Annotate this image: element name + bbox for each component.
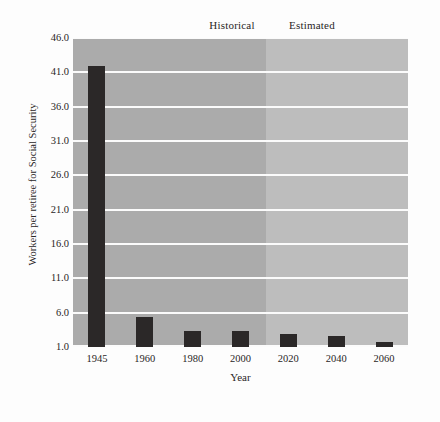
plot-area: [73, 38, 408, 347]
band-label-estimated: Estimated: [277, 19, 347, 31]
x-tick-label: 1980: [169, 353, 217, 364]
bar-2040: [328, 336, 345, 347]
y-tick-label: 46.0: [33, 33, 69, 44]
y-tick-label: 31.0: [33, 136, 69, 147]
gridline: [73, 277, 408, 279]
y-tick-label: 21.0: [33, 205, 69, 216]
bar-1960: [136, 317, 153, 347]
bar-1945: [88, 66, 105, 347]
x-axis-ticks: 1945196019802000202020402060: [73, 353, 408, 369]
x-tick-label: 1960: [121, 353, 169, 364]
y-tick-label: 41.0: [33, 67, 69, 78]
x-axis-label: Year: [73, 371, 408, 383]
bar-1980: [184, 331, 201, 347]
y-tick-label: 1.0: [33, 342, 69, 353]
y-tick-label: 11.0: [33, 273, 69, 284]
band-region-estimated: [266, 38, 408, 347]
gridline: [73, 174, 408, 176]
band-label-historical: Historical: [197, 19, 267, 31]
x-tick-label: 1945: [73, 353, 121, 364]
gridline: [73, 38, 408, 39]
y-tick-label: 16.0: [33, 239, 69, 250]
y-tick-label: 36.0: [33, 102, 69, 113]
x-tick-label: 2000: [217, 353, 265, 364]
x-tick-label: 2060: [360, 353, 408, 364]
gridline: [73, 71, 408, 73]
y-tick-label: 26.0: [33, 170, 69, 181]
y-axis-label: Workers per retiree for Social Security: [27, 90, 38, 280]
x-tick-label: 2040: [312, 353, 360, 364]
bar-2000: [232, 331, 249, 347]
x-tick-label: 2020: [264, 353, 312, 364]
gridline: [73, 106, 408, 108]
gridline: [73, 243, 408, 245]
gridline: [73, 209, 408, 211]
gridline: [73, 140, 408, 142]
y-tick-label: 6.0: [33, 308, 69, 319]
gridline: [73, 312, 408, 314]
bar-2020: [280, 334, 297, 347]
chart-figure: Historical Estimated 1.06.011.016.021.02…: [0, 0, 440, 422]
bar-2060: [376, 342, 393, 347]
